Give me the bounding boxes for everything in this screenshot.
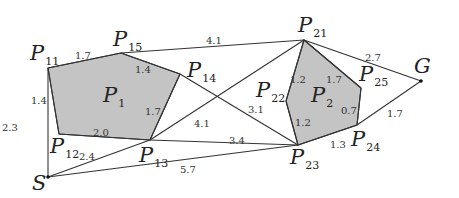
vertex-label-G: G [414,54,431,78]
weight-P21-P22: 1.2 [290,74,306,85]
weight-S-P13: 2.4 [79,151,95,162]
vertex-label-P23: P23 [289,145,319,172]
vertex-label-P14: P14 [186,58,216,85]
vertex-label-P11: P11 [29,41,59,68]
weight-P11-P15: 1.7 [75,50,91,61]
weight-P14-P23: 3.1 [248,104,264,115]
vertex-point-S [46,175,50,179]
weight-P25-P24: 0.7 [341,105,357,116]
weight-P13-P23: 3.4 [229,135,245,146]
weight-P11-S: 2.3 [2,122,18,133]
vertex-label-P21: P21 [297,13,327,40]
weight-S-P23: 5.7 [180,164,196,175]
visibility-graph: 1.71.41.72.01.42.32.45.73.44.14.13.11.21… [0,0,459,198]
weight-P12-P13: 2.0 [93,127,109,138]
weight-P22-P23: 1.2 [295,117,311,128]
vertex-label-P13: P13 [138,143,168,170]
weight-P14-P13: 1.7 [145,106,161,117]
weight-P24-P23: 1.3 [330,139,346,150]
vertex-label-P24: P24 [350,127,380,154]
weight-P15-P14: 1.4 [135,64,151,75]
vertex-label-P25: P25 [358,62,388,89]
weight-P21-P25: 1.7 [326,74,342,85]
vertex-label-S: S [32,171,46,195]
weight-P11-P12: 1.4 [31,95,47,106]
vertex-label-P12: P12 [49,134,79,161]
vertex-point-G [419,79,423,83]
weight-P13-P21: 4.1 [194,118,210,129]
vertex-label-P15: P15 [112,27,142,54]
edge-P13-P23 [150,140,298,145]
weight-P15-P21: 4.1 [206,35,222,46]
vertex-label-P22: P22 [255,78,285,105]
weight-P24-G: 1.7 [387,108,403,119]
